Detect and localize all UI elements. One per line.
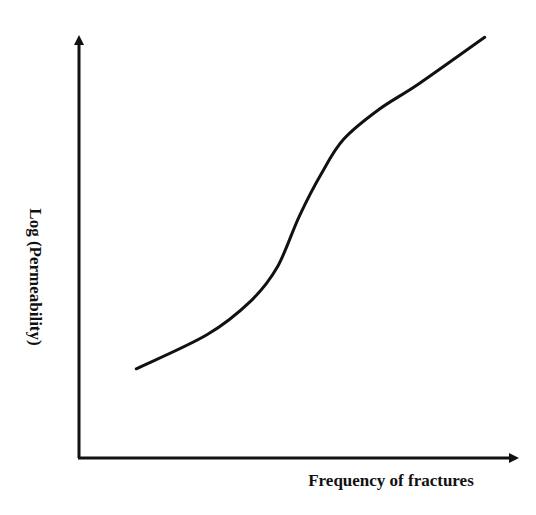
x-axis-label: Frequency of fractures: [308, 471, 474, 490]
data-curve: [136, 37, 484, 369]
chart: Log (Permeability) Frequency of fracture…: [0, 0, 536, 515]
y-axis-label: Log (Permeability): [26, 208, 45, 345]
